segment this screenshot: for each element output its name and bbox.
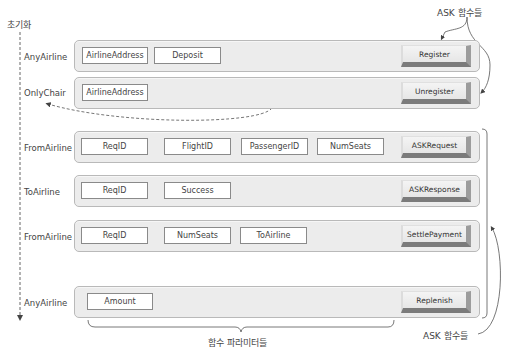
function-row-settlepayment: ReqID NumSeats ToAirline SettlePayment — [74, 220, 480, 252]
param-box: ReqID — [81, 138, 148, 155]
register-button[interactable]: Register — [401, 45, 471, 67]
param-box: AirlineAddress — [82, 84, 148, 101]
function-row-replenish: Amount Replenish — [74, 286, 480, 318]
bottom-annotation-arrow — [478, 228, 500, 334]
askrequest-button[interactable]: ASKRequest — [401, 136, 471, 158]
param-box: ReqID — [81, 182, 148, 199]
top-annotation-arrow-register — [442, 17, 467, 38]
unregister-button[interactable]: Unregister — [401, 82, 471, 104]
row-caller-label: AnyAirline — [24, 52, 67, 62]
row-caller-label: ToAirline — [24, 187, 60, 197]
param-box: AirlineAddress — [82, 47, 148, 64]
replenish-button[interactable]: Replenish — [401, 291, 471, 313]
function-row-unregister: AirlineAddress Unregister — [74, 77, 480, 109]
top-ask-functions-label: ASK 함수들 — [437, 6, 482, 19]
param-box: ReqID — [81, 227, 148, 244]
settlepayment-button[interactable]: SettlePayment — [401, 225, 471, 247]
param-box: PassengerID — [241, 138, 308, 155]
function-row-register: AirlineAddress Deposit Register — [74, 40, 480, 72]
row-caller-label: OnlyChair — [24, 88, 66, 98]
askresponse-button[interactable]: ASKResponse — [401, 180, 471, 202]
params-label: 함수 파라미터들 — [208, 336, 267, 349]
function-row-askresponse: ReqID Success ASKResponse — [74, 175, 480, 207]
param-box: FlightID — [164, 138, 231, 155]
function-row-askrequest: ReqID FlightID PassengerID NumSeats ASKR… — [74, 131, 480, 163]
param-box: ToAirline — [240, 227, 307, 244]
param-box: NumSeats — [317, 138, 384, 155]
param-box: Deposit — [154, 47, 221, 64]
ask-functions-bracket — [482, 129, 487, 318]
row-caller-label: AnyAirline — [24, 298, 67, 308]
params-brace — [88, 320, 394, 332]
param-box: NumSeats — [164, 227, 231, 244]
param-box: Success — [164, 182, 231, 199]
bottom-ask-functions-label: ASK 함수들 — [423, 329, 468, 342]
row-caller-label: FromAirline — [24, 143, 72, 153]
row-caller-label: FromAirline — [24, 232, 72, 242]
start-label: 초기화 — [7, 18, 31, 31]
param-box: Amount — [87, 293, 153, 310]
